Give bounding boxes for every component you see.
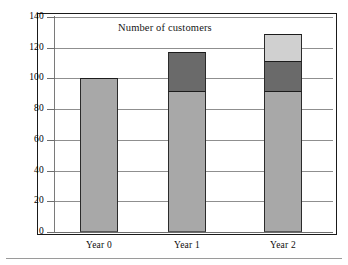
y-label-40: 40 [14,166,44,176]
bar-segment-dark[interactable] [264,61,302,90]
y-label-0: 0 [14,227,44,237]
x-label-year-2: Year 2 [243,240,323,251]
bar-segment-dark[interactable] [168,52,206,90]
tick-mark-0 [47,232,55,233]
y-label-60: 60 [14,135,44,145]
x-label-year-1: Year 1 [147,240,227,251]
y-label-80: 80 [14,104,44,114]
gridline-0 [55,232,333,233]
y-label-140: 140 [14,12,44,22]
bar-segment-medium[interactable] [80,78,118,232]
tick-mark-140 [47,17,55,18]
tick-mark-80 [47,109,55,110]
x-label-year-0: Year 0 [59,240,139,251]
bar-year-0[interactable] [80,78,118,232]
bar-segment-medium[interactable] [264,91,302,232]
y-label-20: 20 [14,196,44,206]
y-label-120: 120 [14,43,44,53]
tick-mark-60 [47,140,55,141]
bar-year-1[interactable] [168,52,206,232]
tick-mark-40 [47,171,55,172]
bar-segment-medium[interactable] [168,91,206,232]
tick-mark-120 [47,48,55,49]
chart-title: Number of customers [118,22,212,34]
bar-segment-light[interactable] [264,34,302,62]
tick-mark-100 [47,78,55,79]
tick-mark-20 [47,201,55,202]
bottom-divider [6,258,342,259]
bar-year-2[interactable] [264,34,302,232]
y-label-100: 100 [14,73,44,83]
y-axis-labels: 140 120 100 80 60 40 20 0 [8,0,44,265]
gridline-140 [55,17,333,18]
